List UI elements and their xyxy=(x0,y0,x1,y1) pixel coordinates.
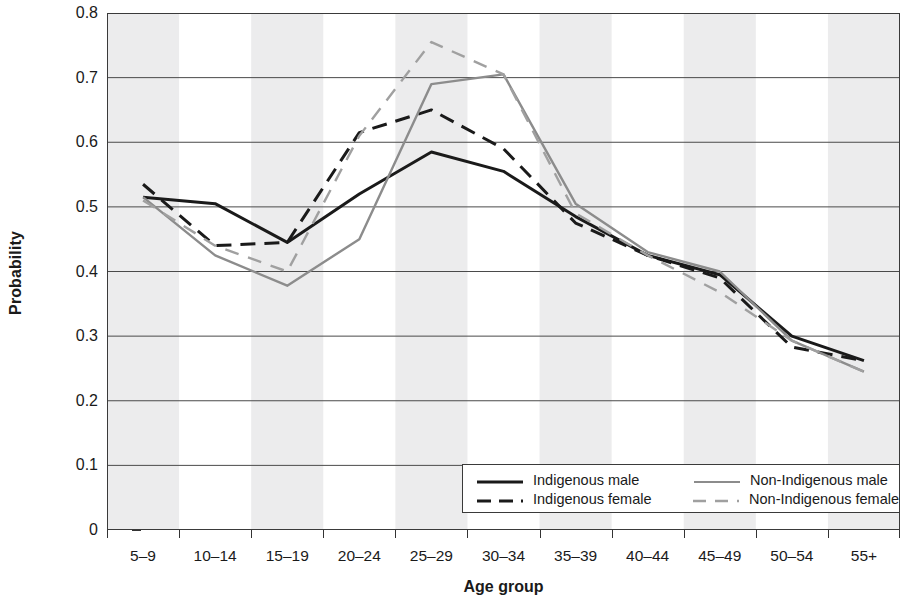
x-tick-label: 10–14 xyxy=(194,547,237,565)
chart-legend: Indigenous male Non-Indigenous male Indi… xyxy=(462,464,900,513)
legend-item-indigenous-male: Indigenous male xyxy=(463,470,684,489)
y-tick-label: 0.3 xyxy=(38,327,98,345)
y-tick-label: 0.7 xyxy=(38,69,98,87)
x-tick-label: 5–9 xyxy=(130,547,156,565)
legend-swatch-solid-grey xyxy=(694,474,740,486)
chart-svg xyxy=(107,13,900,530)
legend-item-non-indigenous-male: Non-Indigenous male xyxy=(684,470,899,489)
legend-swatch-dashed-grey xyxy=(693,493,739,505)
x-tick-mark xyxy=(899,530,900,538)
legend-label: Indigenous male xyxy=(533,472,639,488)
y-axis-title-text: Probability xyxy=(7,231,25,315)
x-tick-mark xyxy=(251,530,252,538)
legend-item-indigenous-female: Indigenous female xyxy=(463,489,683,508)
plot-area xyxy=(107,13,900,530)
gridlines xyxy=(107,78,900,466)
x-tick-label: 40–44 xyxy=(626,547,669,565)
y-tick-label: 0.5 xyxy=(38,198,98,216)
y-tick-label: 0.2 xyxy=(38,392,98,410)
x-axis-ticks: 5–910–1415–1920–2425–2930–3435–3940–4445… xyxy=(107,530,900,575)
chart-figure: Probability 00.10.20.30.40.50.60.70.8 5–… xyxy=(0,0,915,609)
x-tick-mark xyxy=(540,530,541,538)
x-axis-title: Age group xyxy=(107,578,900,596)
x-tick-label: 25–29 xyxy=(410,547,453,565)
y-axis-ticks: 00.10.20.30.40.50.60.70.8 xyxy=(34,0,98,545)
y-tick-label: 0.6 xyxy=(38,133,98,151)
y-tick-label: 0.8 xyxy=(38,4,98,22)
legend-swatch-solid-black xyxy=(477,474,523,486)
y-tick-label: 0 xyxy=(38,521,98,539)
legend-item-non-indigenous-female: Non-Indigenous female xyxy=(683,489,899,508)
x-tick-mark xyxy=(828,530,829,538)
x-tick-label: 20–24 xyxy=(338,547,381,565)
x-tick-label: 30–34 xyxy=(482,547,525,565)
x-tick-mark xyxy=(467,530,468,538)
x-tick-mark xyxy=(612,530,613,538)
legend-row: Indigenous male Non-Indigenous male xyxy=(463,470,899,489)
legend-swatch-dashed-black xyxy=(477,493,523,505)
y-tick-label: 0.4 xyxy=(38,263,98,281)
x-tick-mark xyxy=(107,530,108,538)
legend-label: Non-Indigenous female xyxy=(749,491,899,507)
x-tick-mark xyxy=(756,530,757,538)
y-axis-title: Probability xyxy=(2,0,30,545)
x-tick-mark xyxy=(323,530,324,538)
x-tick-label: 35–39 xyxy=(554,547,597,565)
x-tick-mark xyxy=(684,530,685,538)
x-tick-label: 55+ xyxy=(851,547,877,565)
y-tick-label: 0.1 xyxy=(38,456,98,474)
x-tick-label: 50–54 xyxy=(770,547,813,565)
x-tick-mark xyxy=(179,530,180,538)
legend-label: Non-Indigenous male xyxy=(750,472,888,488)
x-tick-label: 45–49 xyxy=(698,547,741,565)
x-tick-label: 15–19 xyxy=(266,547,309,565)
legend-row: Indigenous female Non-Indigenous female xyxy=(463,489,899,508)
x-tick-mark xyxy=(395,530,396,538)
legend-label: Indigenous female xyxy=(533,491,652,507)
